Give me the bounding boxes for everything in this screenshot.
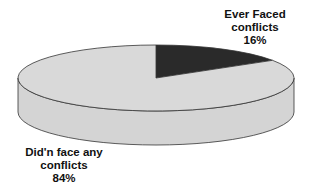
- slice-label-line1: Did'n face any: [4, 146, 124, 159]
- slice-label-line2: conflicts: [4, 159, 124, 172]
- slice-label-did-not-face: Did'n face any conflicts 84%: [4, 146, 124, 185]
- slice-value: 16%: [210, 34, 300, 47]
- slice-label-line2: conflicts: [210, 21, 300, 34]
- slice-value: 84%: [4, 172, 124, 185]
- slice-label-line1: Ever Faced: [210, 8, 300, 21]
- slice-label-ever-faced: Ever Faced conflicts 16%: [210, 8, 300, 47]
